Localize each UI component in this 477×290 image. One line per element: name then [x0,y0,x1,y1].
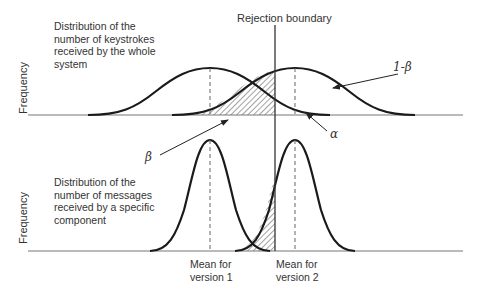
bottom-desc-line-3: received by a specific [54,201,154,214]
bottom-desc-line-2: number of messages [54,189,154,202]
bottom-beta-hatch [232,140,295,251]
mean-version-1-label: Mean for version 1 [190,258,233,283]
rejection-boundary-label: Rejection boundary [237,12,332,25]
top-curve-version-2 [172,68,415,115]
top-desc-line-4: system [54,58,156,71]
one-minus-beta-arrow [333,74,398,88]
bottom-desc-line-1: Distribution of the [54,176,154,189]
beta-arrow [160,120,228,155]
bottom-desc-line-4: component [54,214,154,227]
top-curve-version-1 [88,68,330,115]
top-desc-line-3: received by the whole [54,45,156,58]
bottom-y-axis-label: Frequency [17,189,29,247]
one-minus-beta-label: 1-β [393,60,412,74]
top-panel-description: Distribution of the number of keystrokes… [54,20,156,70]
top-beta-hatch [172,68,295,115]
bottom-panel-description: Distribution of the number of messages r… [54,176,154,226]
beta-label: β [145,150,152,164]
top-desc-line-1: Distribution of the [54,20,156,33]
top-y-axis-label: Frequency [17,59,29,117]
mean-v1-line-1: Mean for [190,258,233,271]
alpha-label: α [330,127,338,141]
mean-v1-line-2: version 1 [190,271,233,284]
top-desc-line-2: number of keystrokes [54,33,156,46]
mean-v2-line-2: version 2 [276,271,319,284]
mean-v2-line-1: Mean for [276,258,319,271]
mean-version-2-label: Mean for version 2 [276,258,319,283]
